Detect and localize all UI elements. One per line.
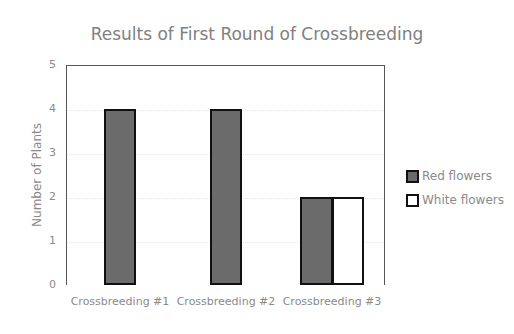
y-tick-5: 5 (40, 58, 56, 71)
chart-title: Results of First Round of Crossbreeding (0, 24, 514, 44)
legend-swatch-white-icon (406, 194, 419, 207)
bar-white-flowers-3 (332, 197, 364, 285)
legend-item-red-flowers: Red flowers (406, 164, 504, 188)
bar-red-flowers-2 (210, 109, 242, 285)
legend-label: White flowers (422, 193, 504, 207)
legend-item-white-flowers: White flowers (406, 188, 504, 212)
legend-label: Red flowers (422, 169, 492, 183)
bar-red-flowers-1 (104, 109, 136, 285)
y-tick-2: 2 (40, 190, 56, 203)
y-tick-3: 3 (40, 146, 56, 159)
y-tick-4: 4 (40, 102, 56, 115)
y-tick-0: 0 (40, 278, 56, 291)
y-axis-label: Number of Plants (30, 123, 44, 227)
x-tick-1: Crossbreeding #1 (71, 295, 170, 308)
x-tick-2: Crossbreeding #2 (177, 295, 276, 308)
legend-swatch-red-icon (406, 170, 419, 183)
y-tick-1: 1 (40, 234, 56, 247)
legend: Red flowers White flowers (406, 164, 504, 212)
x-tick-3: Crossbreeding #3 (283, 295, 382, 308)
bar-red-flowers-3 (300, 197, 333, 285)
